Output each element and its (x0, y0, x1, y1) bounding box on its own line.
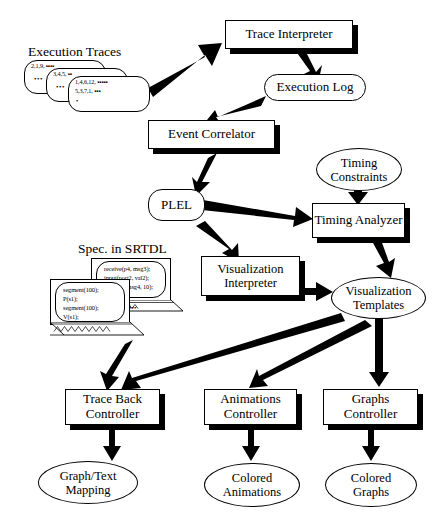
node-trace-interpreter[interactable]: Trace Interpreter (225, 20, 353, 49)
spec-card-front-line2: P(s1); (63, 294, 78, 303)
spec-in-srtdl-stack: receive(p4, msg3); input(port2, val2); s… (50, 258, 190, 346)
node-event-correlator[interactable]: Event Correlator (148, 120, 275, 149)
spec-card-front: segment(100); P(s1); segment(100); V(s1)… (50, 279, 130, 325)
trace-card-middle-text: 3,4,5, ▪▪ (53, 70, 72, 78)
trace-card-middle-dots: ••• (56, 83, 65, 91)
trace-card-front-line2: 5,3,7,1, ▪▪▪ (75, 87, 101, 95)
node-animations-controller-line2: Controller (220, 407, 281, 422)
spec-stack-dots: ••• (129, 304, 136, 312)
node-trace-interpreter-label: Trace Interpreter (245, 27, 332, 42)
node-trace-back-controller[interactable]: Trace Back Controller (65, 389, 160, 425)
trace-card-back-text: 2,1,9, ▪▪▪▪ (31, 62, 54, 70)
edge-analyzer-to-templates (373, 240, 395, 278)
node-visualization-interpreter[interactable]: Visualization Interpreter (201, 256, 300, 296)
node-timing-analyzer[interactable]: Timing Analyzer (312, 203, 405, 238)
node-animations-controller-line1: Animations (220, 392, 281, 407)
node-trace-back-controller-line1: Trace Back (83, 392, 142, 407)
node-execution-log[interactable]: Execution Log (264, 74, 366, 101)
node-trace-back-controller-line2: Controller (83, 407, 142, 422)
edge-templates-to-animations (249, 320, 372, 388)
node-graphs-controller[interactable]: Graphs Controller (323, 389, 418, 425)
execution-traces-stack: 2,1,9, ▪▪▪▪ ••• 3,4,5, ▪▪ ••• 1,4,6,12, … (24, 60, 184, 120)
node-colored-animations-line1: Colored (223, 471, 281, 485)
node-visualization-templates-line1: Visualization (346, 284, 412, 298)
edge-spec-to-traceback (100, 340, 133, 391)
node-colored-animations-line2: Animations (223, 485, 281, 499)
edge-traceback-to-mapping (103, 424, 121, 461)
edge-vis-interpreter-to-templates (300, 282, 333, 301)
spec-card-front-line1: segment(100); (63, 285, 99, 294)
trace-card-front-line3: • (76, 97, 78, 105)
node-graphs-controller-line1: Graphs (344, 392, 397, 407)
execution-traces-label: Execution Traces (28, 44, 121, 60)
node-animations-controller[interactable]: Animations Controller (204, 389, 297, 425)
edge-plel-to-timing-analyzer (202, 200, 313, 227)
node-graphs-controller-line2: Controller (344, 407, 397, 422)
spec-card-front-line3: segment(100); (63, 303, 99, 312)
node-plel[interactable]: PLEL (148, 189, 205, 221)
spec-card-back-line1: receive(p4, msg3); (104, 264, 150, 273)
trace-card-back-dots: ••• (34, 75, 43, 83)
node-event-correlator-label: Event Correlator (168, 127, 255, 142)
spec-card-front-line4: V(s1); (63, 312, 79, 321)
node-timing-constraints[interactable]: Timing Constraints (316, 148, 402, 191)
node-graph-text-mapping-line2: Mapping (60, 483, 117, 497)
node-graph-text-mapping[interactable]: Graph/Text Mapping (38, 461, 138, 504)
node-timing-constraints-line1: Timing (331, 156, 388, 170)
node-timing-constraints-line2: Constraints (331, 170, 388, 184)
edge-animations-to-colored (242, 424, 260, 461)
node-colored-animations[interactable]: Colored Animations (204, 463, 300, 507)
spec-card-front-sprocket (50, 322, 144, 336)
node-plel-label: PLEL (161, 198, 192, 213)
node-colored-graphs-line2: Graphs (351, 485, 391, 499)
edge-graphs-to-colored (362, 424, 380, 461)
edge-templates-to-graphs (369, 318, 389, 387)
node-visualization-templates-line2: Templates (346, 298, 412, 312)
node-visualization-interpreter-line1: Visualization (218, 262, 284, 276)
spec-in-srtdl-label: Spec. in SRTDL (78, 241, 167, 257)
diagram-canvas: Execution Traces 2,1,9, ▪▪▪▪ ••• 3,4,5, … (0, 0, 445, 525)
node-colored-graphs-line1: Colored (351, 471, 391, 485)
node-visualization-interpreter-line2: Interpreter (218, 276, 284, 290)
node-graph-text-mapping-line1: Graph/Text (60, 469, 117, 483)
node-execution-log-label: Execution Log (277, 80, 354, 95)
node-colored-graphs[interactable]: Colored Graphs (325, 463, 417, 507)
node-visualization-templates[interactable]: Visualization Templates (331, 277, 426, 319)
node-timing-analyzer-label: Timing Analyzer (315, 213, 403, 228)
trace-card-front-line1: 1,4,6,12, ▪▪▪▪▪ (75, 78, 108, 86)
trace-card-front: 1,4,6,12, ▪▪▪▪▪ 5,3,7,1, ▪▪▪ • (68, 76, 150, 112)
